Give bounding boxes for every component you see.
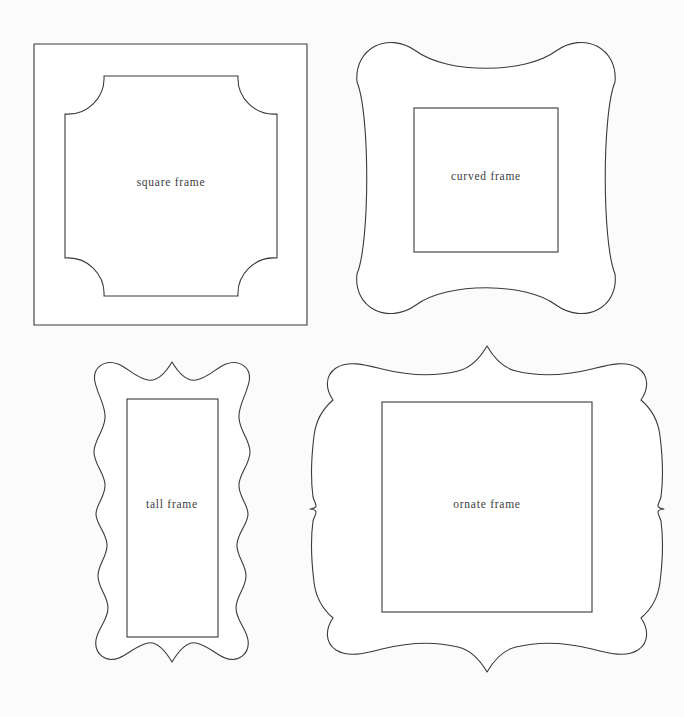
square-frame-group[interactable]: square frame xyxy=(34,44,307,325)
frames-illustration: square frame curved frame tall frame orn… xyxy=(0,0,684,717)
frame-template-canvas: square frame curved frame tall frame orn… xyxy=(0,0,684,717)
tall-frame-inner-opening xyxy=(127,399,218,637)
ornate-frame-label: ornate frame xyxy=(453,498,520,510)
ornate-frame-group[interactable]: ornate frame xyxy=(310,346,664,672)
tall-frame-group[interactable]: tall frame xyxy=(94,362,250,662)
curved-frame-group[interactable]: curved frame xyxy=(357,42,616,313)
curved-frame-label: curved frame xyxy=(451,170,521,182)
square-frame-label: square frame xyxy=(137,176,206,189)
tall-frame-label: tall frame xyxy=(146,498,198,510)
